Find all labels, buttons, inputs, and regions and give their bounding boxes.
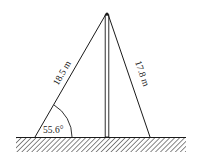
angle-label: 55.6°	[43, 125, 64, 135]
left-wire-length-label: 18.5 m	[51, 59, 73, 87]
right-wire-length-label: 17.8 m	[133, 59, 151, 88]
left-guy-wire	[35, 14, 106, 137]
pole	[105, 12, 109, 137]
pole-diagram: 18.5 m 17.8 m 55.6°	[0, 0, 203, 160]
ground	[16, 137, 186, 152]
